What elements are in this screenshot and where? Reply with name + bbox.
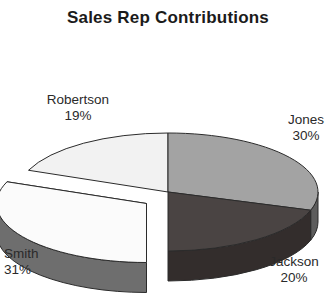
slice-label-jones-name: Jones bbox=[278, 112, 334, 128]
slice-label-jones: Jones 30% bbox=[278, 112, 334, 143]
slice-top-robertson bbox=[29, 133, 168, 192]
slice-label-smith-percent: 31% bbox=[4, 262, 84, 278]
slice-label-smith-name: Smith bbox=[4, 246, 84, 262]
slice-label-jackson-name: Jackson bbox=[256, 254, 332, 270]
slice-label-robertson: Robertson 19% bbox=[26, 92, 130, 123]
slice-label-robertson-name: Robertson bbox=[26, 92, 130, 108]
slice-label-smith: Smith 31% bbox=[4, 246, 84, 277]
slice-label-robertson-percent: 19% bbox=[26, 108, 130, 124]
slice-label-jackson-percent: 20% bbox=[256, 270, 332, 286]
slice-label-jackson: Jackson 20% bbox=[256, 254, 332, 285]
pie-chart-figure: Sales Rep Contributions Robertson 19% Jo… bbox=[0, 0, 336, 298]
slice-label-jones-percent: 30% bbox=[278, 128, 334, 144]
